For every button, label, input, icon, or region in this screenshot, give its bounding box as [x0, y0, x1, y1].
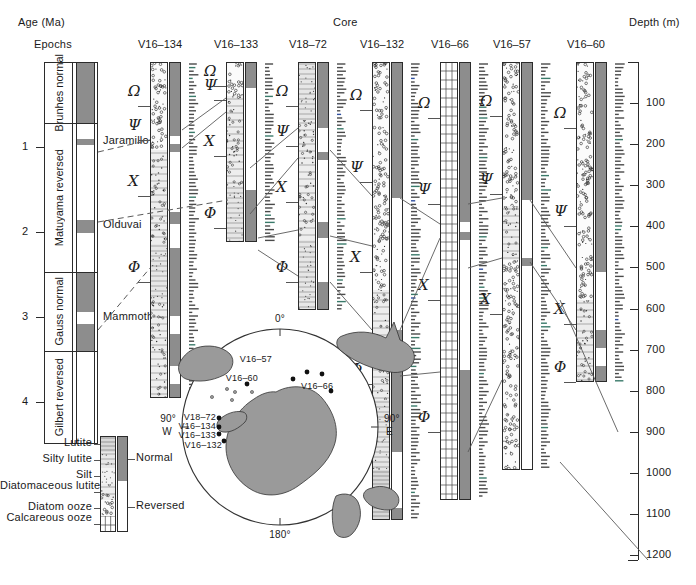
map-site-label: V16–57 — [240, 354, 272, 364]
map-bearing-south: 180° — [269, 529, 290, 540]
map-site-label: V16–133 — [179, 430, 216, 440]
map-site-label: V16–60 — [226, 373, 258, 383]
antarctica-map-inset — [0, 0, 696, 585]
map-bearing-west-letter: W — [162, 426, 172, 437]
map-site-label: V16–66 — [301, 381, 333, 391]
map-site-label: V16–132 — [185, 440, 222, 450]
map-bearing-north: 0° — [275, 313, 285, 324]
map-bearing-west-deg: 90° — [160, 413, 176, 424]
map-bearing-east-deg: 90° — [384, 413, 400, 424]
map-bearing-east-letter: E — [386, 426, 393, 437]
